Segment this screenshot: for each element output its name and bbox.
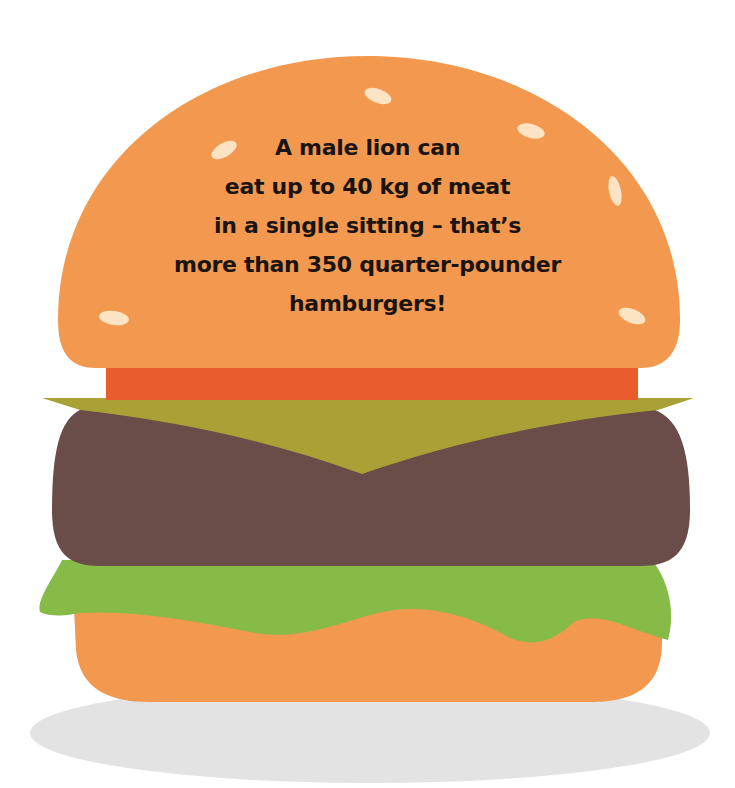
lion-fact-caption: A male lion can eat up to 40 kg of meat … <box>100 128 635 323</box>
tomato-slice <box>106 368 638 400</box>
hamburger-illustration: A male lion can eat up to 40 kg of meat … <box>0 0 735 788</box>
caption-line-2: eat up to 40 kg of meat <box>100 167 635 206</box>
caption-line-4: more than 350 quarter-pounder <box>100 245 635 284</box>
caption-line-1: A male lion can <box>100 128 635 167</box>
caption-line-3: in a single sitting – that’s <box>100 206 635 245</box>
hamburger-graphic <box>0 0 735 788</box>
caption-line-5: hamburgers! <box>100 284 635 323</box>
